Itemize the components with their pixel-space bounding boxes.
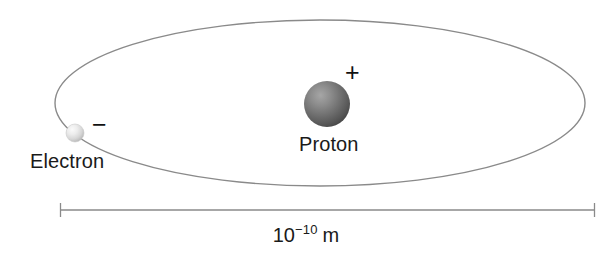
proton-charge-symbol: + [345, 60, 360, 85]
proton-sphere [304, 81, 350, 127]
size-scale-bar [60, 203, 595, 217]
scale-value-exponent: −10 [295, 222, 318, 237]
proton-label: Proton [299, 134, 359, 154]
atom-diagram-figure: + − Proton Electron 10−10m [0, 0, 612, 265]
scale-unit: m [323, 224, 340, 246]
electron-sphere [66, 124, 84, 142]
electron-label: Electron [30, 151, 104, 171]
electron-charge-symbol: − [92, 112, 107, 137]
scale-value-base: 10 [273, 224, 295, 246]
scale-bar-label: 10−10m [0, 225, 612, 245]
